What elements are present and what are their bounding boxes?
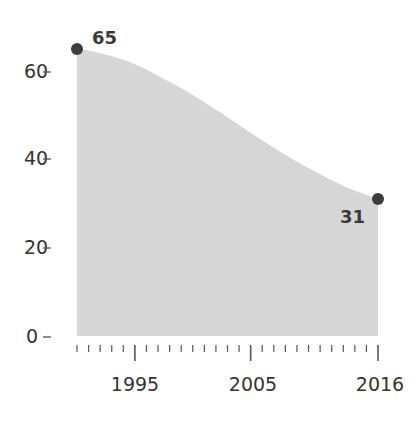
area-chart: 60 40 20 0 1995 2005 2016 65 31: [0, 0, 416, 423]
end-value-label: 31: [340, 206, 365, 227]
x-axis-ticks: [77, 345, 378, 361]
y-tick-label-40: 40: [24, 147, 48, 169]
x-tick-label-1995: 1995: [111, 373, 159, 395]
x-tick-label-2016: 2016: [356, 373, 404, 395]
start-value-label: 65: [92, 27, 117, 48]
y-tick-label-60: 60: [24, 60, 48, 82]
end-point-marker: [372, 193, 384, 205]
start-point-marker: [71, 43, 83, 55]
x-axis: 1995 2005 2016: [111, 373, 404, 395]
y-tick-label-0: 0: [26, 325, 38, 347]
y-axis: 60 40 20 0: [24, 60, 51, 347]
y-tick-label-20: 20: [24, 236, 48, 258]
x-tick-label-2005: 2005: [229, 373, 277, 395]
area-series: [77, 49, 378, 336]
